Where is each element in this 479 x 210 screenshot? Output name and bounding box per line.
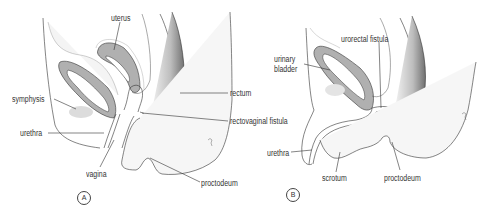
- panel-marker-b: B: [286, 188, 300, 202]
- label-proctodeum-a: proctodeum: [201, 179, 238, 188]
- label-proctodeum-b: proctodeum: [384, 174, 421, 183]
- panel-b-drawing: [302, 16, 476, 165]
- label-urorectal-fistula: urorectal fistula: [341, 35, 388, 44]
- label-scrotum: scrotum: [322, 174, 347, 183]
- label-urinary-bladder-line2: bladder: [274, 65, 297, 74]
- label-vagina: vagina: [86, 170, 107, 179]
- panel-marker-a: A: [77, 191, 91, 205]
- label-urethra-b: urethra: [267, 149, 289, 158]
- label-urinary-bladder-line1: urinary: [274, 55, 295, 64]
- label-rectovaginal-fistula: rectovaginal fistula: [230, 117, 288, 126]
- label-urethra-a: urethra: [20, 129, 42, 138]
- label-rectum: rectum: [230, 89, 251, 98]
- label-uterus: uterus: [111, 14, 130, 23]
- label-symphysis: symphysis: [12, 95, 45, 104]
